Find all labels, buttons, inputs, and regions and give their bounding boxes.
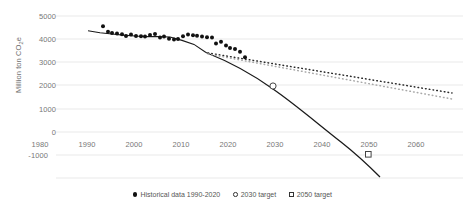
linear-path-lower-dotted xyxy=(208,54,452,99)
open-square-icon xyxy=(289,192,294,197)
plot-area xyxy=(0,0,465,210)
historical-data-points xyxy=(101,24,247,59)
emissions-chart: Million ton CO2e 5000 4000 3000 2000 100… xyxy=(0,0,465,210)
gridlines xyxy=(56,16,463,178)
chart-legend: Historical data 1990-2020 2030 target 20… xyxy=(0,191,465,198)
legend-label-historical: Historical data 1990-2020 xyxy=(140,191,220,198)
legend-label-2050-target: 2050 target xyxy=(297,191,332,198)
target-2030-marker xyxy=(270,83,276,89)
legend-label-2030-target: 2030 target xyxy=(241,191,276,198)
target-2050-marker xyxy=(366,152,372,158)
legend-item-2030-target[interactable]: 2030 target xyxy=(233,191,276,198)
projection-line xyxy=(206,53,380,178)
legend-item-historical[interactable]: Historical data 1990-2020 xyxy=(133,191,220,198)
open-circle-icon xyxy=(233,192,238,197)
filled-circle-icon xyxy=(133,192,138,197)
legend-item-2050-target[interactable]: 2050 target xyxy=(289,191,332,198)
